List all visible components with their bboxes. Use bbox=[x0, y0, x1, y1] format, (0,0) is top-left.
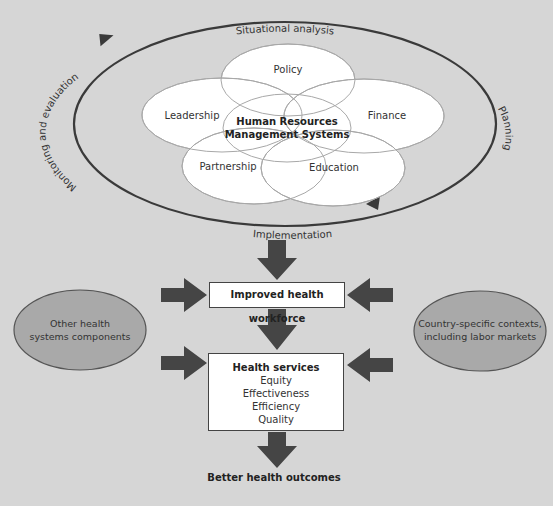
cycle-arrowhead-top-icon bbox=[96, 30, 115, 47]
cycle-label-situational-analysis: Situational analysis bbox=[235, 23, 334, 37]
right-oval-line2: including labor markets bbox=[424, 331, 536, 343]
health-services-item: Equity bbox=[209, 374, 343, 387]
arrow-down-to-workforce-icon bbox=[257, 240, 297, 280]
petal-label-leadership: Leadership bbox=[165, 109, 220, 122]
health-services-item: Effectiveness bbox=[209, 387, 343, 400]
right-oval-line1: Country-specific contexts, bbox=[418, 318, 542, 330]
health-services-item: Quality bbox=[209, 413, 343, 426]
petal-label-finance: Finance bbox=[368, 109, 406, 122]
better-health-outcomes-label: Better health outcomes bbox=[207, 471, 340, 484]
arrow-right-to-workforce-icon bbox=[161, 278, 207, 312]
left-oval-line2: systems components bbox=[29, 331, 130, 343]
petal-label-education: Education bbox=[309, 161, 359, 174]
health-services-item: Efficiency bbox=[209, 400, 343, 413]
arrow-left-to-services-icon bbox=[347, 348, 393, 382]
health-services-box: Health services Equity Effectiveness Eff… bbox=[208, 353, 344, 431]
cycle-label-monitoring-evaluation: Monitoring and evaluation bbox=[36, 71, 80, 194]
petal-label-partnership: Partnership bbox=[199, 160, 256, 173]
hrm-diagram: Situational analysis Monitoring and eval… bbox=[0, 0, 553, 506]
improved-health-workforce-box: Improved health workforce bbox=[209, 282, 345, 308]
hrms-label-line2: Management Systems bbox=[225, 128, 350, 141]
arrow-right-to-services-icon bbox=[161, 346, 207, 380]
cycle-label-planning: Planning bbox=[496, 104, 515, 152]
hrms-label-line1: Human Resources bbox=[236, 115, 337, 128]
health-services-title: Health services bbox=[209, 361, 343, 374]
arrow-down-to-outcomes-icon bbox=[257, 432, 297, 468]
cycle-label-implementation: Implementation bbox=[253, 228, 333, 241]
petal-label-policy: Policy bbox=[274, 63, 303, 76]
arrow-left-to-workforce-icon bbox=[347, 278, 393, 312]
other-health-systems-oval bbox=[14, 290, 146, 370]
left-oval-line1: Other health bbox=[50, 318, 110, 330]
